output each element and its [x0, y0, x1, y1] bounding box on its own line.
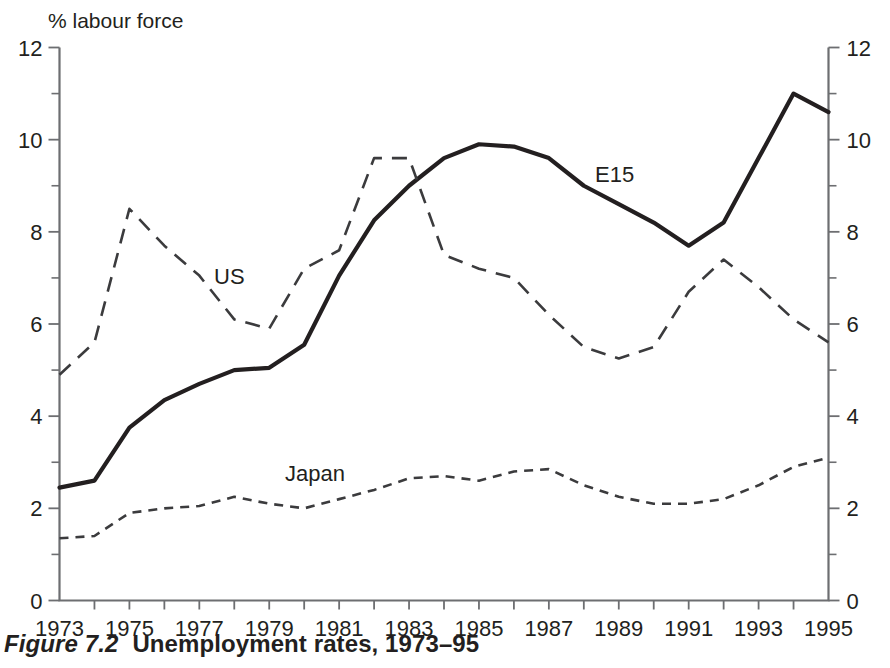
series-line-japan: [60, 458, 829, 539]
x-tick-label: 1989: [594, 616, 643, 641]
y-tick-label-right: 4: [847, 404, 859, 429]
chart-series-lines: [60, 94, 829, 539]
chart-axes: [60, 48, 829, 601]
y-axis-title: % labour force: [48, 9, 183, 32]
series-label-japan: Japan: [285, 461, 345, 486]
y-tick-label-right: 12: [847, 36, 871, 61]
figure-caption: Figure 7.2Unemployment rates, 1973–95: [4, 630, 479, 658]
y-tick-label-left: 0: [30, 589, 42, 614]
series-label-e15: E15: [595, 162, 634, 187]
y-tick-label-left: 6: [30, 312, 42, 337]
figure-title: Unemployment rates, 1973–95: [132, 630, 479, 657]
x-tick-label: 1995: [804, 616, 853, 641]
x-tick-label: 1987: [524, 616, 573, 641]
y-tick-label-left: 2: [30, 496, 42, 521]
y-tick-label-right: 8: [847, 220, 859, 245]
y-tick-label-right: 6: [847, 312, 859, 337]
figure-container: 0246810120246810121973197519771979198119…: [0, 0, 890, 668]
y-tick-label-right: 2: [847, 496, 859, 521]
unemployment-line-chart: 0246810120246810121973197519771979198119…: [0, 0, 890, 668]
series-line-e15: [60, 94, 829, 488]
x-tick-label: 1991: [664, 616, 713, 641]
y-tick-label-left: 8: [30, 220, 42, 245]
chart-tick-labels: 0246810120246810121973197519771979198119…: [18, 36, 871, 641]
chart-ticks: [49, 48, 840, 610]
series-line-us: [60, 158, 829, 375]
figure-number: Figure 7.2: [4, 630, 118, 657]
x-tick-label: 1993: [734, 616, 783, 641]
y-tick-label-right: 10: [847, 128, 871, 153]
y-tick-label-left: 12: [18, 36, 42, 61]
y-tick-label-right: 0: [847, 589, 859, 614]
y-tick-label-left: 10: [18, 128, 42, 153]
y-tick-label-left: 4: [30, 404, 42, 429]
series-label-us: US: [214, 264, 245, 289]
